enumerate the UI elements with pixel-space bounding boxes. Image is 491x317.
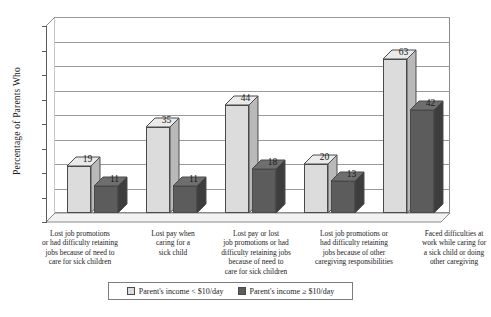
bar-face: [173, 186, 197, 213]
bar-face: [383, 59, 407, 213]
y-axis-title: Percentage of Parents Who: [12, 36, 22, 206]
bar-face: [94, 186, 118, 213]
bar-value-label: 44: [226, 94, 266, 104]
bar-value-label: 13: [332, 170, 372, 180]
bar-dark-group-1: [94, 186, 118, 213]
bar-light-group-2: [146, 127, 170, 213]
legend-label-dark: Parent's income ≥ $10/day: [250, 287, 335, 296]
bar-face: [225, 105, 249, 213]
bar-light-group-4: [304, 164, 328, 213]
bar-face: [67, 166, 91, 213]
bar-face: [304, 164, 328, 213]
x-axis-category-labels: Lost job promotionsor had difficulty ret…: [28, 229, 458, 275]
chart-legend: Parent's income < $10/day Parent's incom…: [108, 282, 353, 300]
legend-swatch-dark: [238, 287, 246, 295]
bar-value-label: 19: [68, 155, 108, 165]
legend-label-light: Parent's income < $10/day: [139, 287, 224, 296]
bar-value-label: 20: [305, 153, 345, 163]
x-axis-label-2: Lost pay whencaring for asick child: [136, 229, 210, 257]
bar-series-container: 19113511441820136342: [46, 17, 450, 222]
x-axis-label-5: Faced difficulties atwork while caring f…: [404, 229, 491, 267]
bar-face: [146, 127, 170, 213]
plot-area: 01020304050607080 19113511441820136342: [46, 17, 450, 222]
bar-value-label: 18: [253, 158, 293, 168]
bar-value-label: 11: [174, 175, 214, 185]
legend-item-light: Parent's income < $10/day: [127, 287, 224, 296]
x-axis-label-4: Lost job promotions orhad difficulty ret…: [304, 229, 404, 267]
bar-face: [410, 110, 434, 213]
bar-dark-group-4: [331, 181, 355, 213]
bar-value-label: 35: [147, 116, 187, 126]
legend-swatch-light: [127, 287, 135, 295]
bar-dark-group-3: [252, 169, 276, 213]
bar-value-label: 63: [384, 48, 424, 58]
y-axis-tick: [42, 222, 47, 223]
bar-light-group-1: [67, 166, 91, 213]
bar-light-group-3: [225, 105, 249, 213]
bar-face: [252, 169, 276, 213]
bar-value-label: 42: [411, 99, 451, 109]
bar-light-group-5: [383, 59, 407, 213]
bar-side-3d: [434, 110, 443, 213]
bar-dark-group-5: [410, 110, 434, 213]
legend-item-dark: Parent's income ≥ $10/day: [238, 287, 335, 296]
bar-side-3d: [197, 186, 206, 213]
bar-dark-group-2: [173, 186, 197, 213]
bar-value-label: 11: [95, 175, 135, 185]
x-axis-label-3: Lost pay or lostjob promotions or haddif…: [210, 229, 302, 276]
bar-face: [331, 181, 355, 213]
bar-side-3d: [118, 186, 127, 213]
bar-side-3d: [355, 181, 364, 213]
bar-side-3d: [276, 169, 285, 213]
x-axis-label-1: Lost job promotionsor had difficulty ret…: [28, 229, 132, 267]
